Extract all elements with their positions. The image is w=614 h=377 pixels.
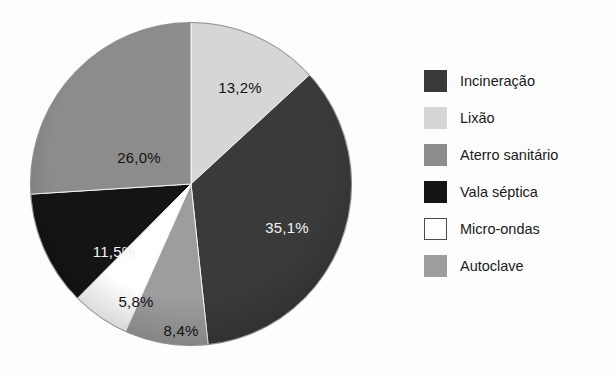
pie-shading-overlay: [30, 22, 352, 346]
legend-color-swatch: [424, 70, 447, 92]
legend-item-label: Micro-ondas: [460, 221, 540, 237]
pie-chart-figure: 13,2%35,1%8,4%5,8%11,5%26,0% Incineração…: [0, 0, 614, 377]
legend-item-6[interactable]: Autoclave: [424, 247, 604, 284]
legend-item-5[interactable]: Micro-ondas: [424, 210, 604, 247]
pie-slice-value-label: 13,2%: [218, 79, 262, 96]
pie-slice-value-label: 11,5%: [93, 243, 135, 260]
legend-item-label: Lixão: [460, 110, 495, 126]
pie-slice-value-label: 26,0%: [117, 149, 161, 166]
chart-legend: IncineraçãoLixãoAterro sanitárioVala sép…: [424, 62, 604, 284]
pie-chart-graphic: 13,2%35,1%8,4%5,8%11,5%26,0%: [28, 20, 356, 348]
legend-color-swatch: [424, 107, 447, 129]
pie-slice-value-label: 8,4%: [164, 322, 199, 339]
legend-item-label: Autoclave: [460, 258, 524, 274]
legend-item-2[interactable]: Lixão: [424, 99, 604, 136]
legend-item-3[interactable]: Aterro sanitário: [424, 136, 604, 173]
legend-color-swatch: [424, 255, 447, 277]
legend-color-swatch: [424, 144, 447, 166]
pie-slice-value-label: 35,1%: [265, 219, 309, 236]
legend-item-label: Vala séptica: [460, 184, 538, 200]
pie-slice-value-label: 5,8%: [119, 293, 154, 310]
legend-item-4[interactable]: Vala séptica: [424, 173, 604, 210]
legend-item-label: Incineração: [460, 73, 535, 89]
pie-svg: [28, 20, 356, 348]
legend-color-swatch: [424, 218, 447, 240]
legend-item-1[interactable]: Incineração: [424, 62, 604, 99]
legend-color-swatch: [424, 181, 447, 203]
legend-item-label: Aterro sanitário: [460, 147, 558, 163]
